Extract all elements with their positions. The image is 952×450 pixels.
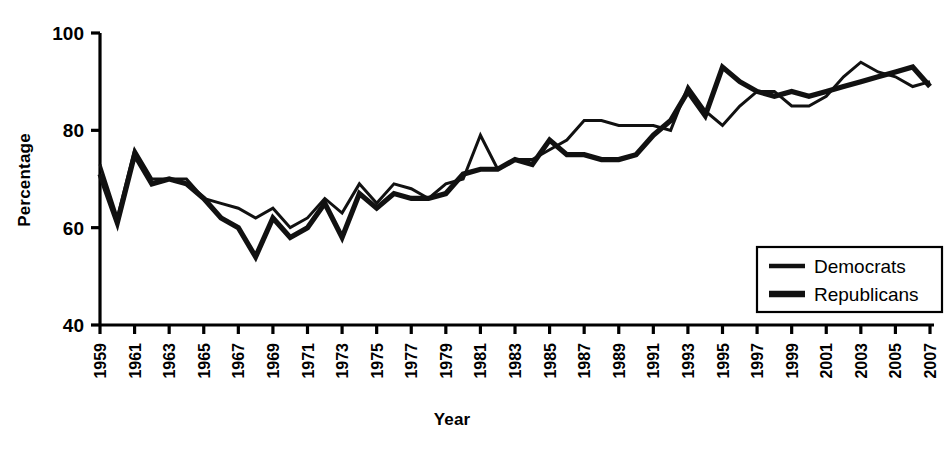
x-tick-label: 2007 <box>922 343 939 379</box>
x-tick-label: 1997 <box>749 343 766 379</box>
x-tick-label: 1959 <box>92 343 109 379</box>
x-tick-label: 1971 <box>300 343 317 379</box>
x-tick-label: 1987 <box>576 343 593 379</box>
y-tick-label: 60 <box>63 218 84 239</box>
series-line-republicans <box>100 67 930 257</box>
x-tick-label: 1989 <box>611 343 628 379</box>
x-tick-label: 1993 <box>680 343 697 379</box>
x-tick-label: 1967 <box>230 343 247 379</box>
x-tick-label: 1995 <box>715 343 732 379</box>
x-tick-label: 1983 <box>507 343 524 379</box>
x-tick-label: 1975 <box>369 343 386 379</box>
x-tick-label: 1965 <box>196 343 213 379</box>
x-tick-label: 1973 <box>334 343 351 379</box>
x-tick-label: 1981 <box>472 343 489 379</box>
x-tick-label: 2001 <box>818 343 835 379</box>
chart-legend: DemocratsRepublicans <box>757 247 942 312</box>
x-tick-label: 1977 <box>403 343 420 379</box>
y-axis-title: Percentage <box>15 133 34 227</box>
x-tick-label: 1969 <box>265 343 282 379</box>
x-tick-label: 1961 <box>127 343 144 379</box>
x-tick-label: 1999 <box>784 343 801 379</box>
data-series-group <box>100 62 930 257</box>
x-tick-label: 2005 <box>887 343 904 379</box>
x-tick-label: 1979 <box>438 343 455 379</box>
x-tick-label: 1991 <box>645 343 662 379</box>
chart-figure: 406080100 195919611963196519671969197119… <box>0 0 952 450</box>
x-axis: 1959196119631965196719691971197319751977… <box>92 325 939 379</box>
x-tick-label: 2003 <box>853 343 870 379</box>
series-line-democrats <box>100 62 930 227</box>
y-tick-label: 40 <box>63 315 84 336</box>
legend-label-democrats: Democrats <box>814 256 906 277</box>
y-tick-label: 80 <box>63 120 84 141</box>
x-tick-label: 1985 <box>542 343 559 379</box>
x-tick-label: 1963 <box>161 343 178 379</box>
y-axis: 406080100 <box>52 23 100 336</box>
x-axis-title: Year <box>434 410 471 429</box>
y-tick-label: 100 <box>52 23 84 44</box>
line-chart: 406080100 195919611963196519671969197119… <box>0 0 952 450</box>
legend-label-republicans: Republicans <box>814 284 919 305</box>
